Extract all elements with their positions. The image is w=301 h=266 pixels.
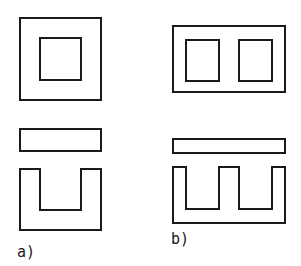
frame-core-single-window [20, 18, 101, 100]
label-a: a) [17, 243, 35, 261]
window [40, 38, 81, 80]
window-right [239, 40, 272, 81]
window-left [186, 40, 219, 81]
figure-a: a) [17, 18, 101, 261]
figure-b: b) [171, 26, 285, 248]
i-bar-a [20, 129, 101, 151]
i-bar-b [173, 139, 285, 153]
e-core [173, 167, 285, 223]
u-core [20, 169, 101, 230]
diagram-canvas: a) b) [0, 0, 301, 266]
frame-core-double-window [173, 26, 285, 92]
outer-frame [173, 26, 285, 92]
outer-frame [20, 18, 101, 100]
label-b: b) [171, 230, 189, 248]
